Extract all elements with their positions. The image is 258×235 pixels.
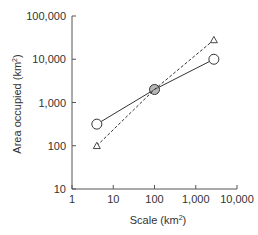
x-tick-label: 1 xyxy=(69,193,75,205)
y-tick-label: 10,000 xyxy=(32,53,66,65)
circle-series xyxy=(92,54,219,129)
y-axis-label: Area occupied (km2) xyxy=(11,54,23,153)
x-tick-label: 100 xyxy=(145,193,163,205)
y-tick-label: 100,000 xyxy=(26,10,66,22)
y-tick-label: 1,000 xyxy=(38,97,66,109)
data-series xyxy=(92,36,219,148)
x-tick-label: 1,000 xyxy=(182,193,210,205)
y-tick-label: 10 xyxy=(54,183,66,195)
circle-marker xyxy=(209,54,219,64)
chart: 101001,00010,000100,0001101001,00010,000… xyxy=(0,0,258,235)
y-tick-label: 100 xyxy=(48,140,66,152)
x-tick-label: 10 xyxy=(107,193,119,205)
axes: 101001,00010,000100,0001101001,00010,000 xyxy=(26,10,254,205)
x-axis-label: Scale (km2) xyxy=(130,214,186,226)
triangle-marker xyxy=(210,36,217,42)
circle-marker xyxy=(92,119,102,129)
x-tick-label: 10,000 xyxy=(220,193,254,205)
triangle-marker xyxy=(93,142,100,148)
